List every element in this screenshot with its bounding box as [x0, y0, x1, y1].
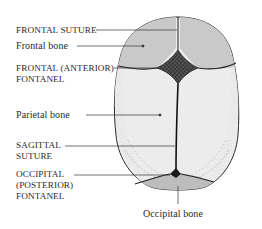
frontal-bone-left	[100, 10, 176, 69]
label-frontal-suture: FRONTAL SUTURE	[16, 25, 97, 36]
label-occipital-bone: Occipital bone	[143, 208, 203, 219]
label-frontal-bone: Frontal bone	[16, 40, 68, 51]
frontal-bone-right	[180, 10, 260, 69]
label-parietal-bone: Parietal bone	[16, 109, 70, 120]
label-occipital-fontanel: OCCIPITAL (POSTERIOR) FONTANEL	[16, 169, 73, 202]
label-frontal-fontanel: FRONTAL (ANTERIOR) FONTANEL	[16, 63, 114, 85]
label-sagittal-suture: SAGITTAL SUTURE	[16, 140, 61, 162]
